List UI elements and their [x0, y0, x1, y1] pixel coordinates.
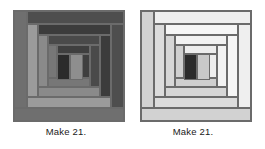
light-block-log-r2-right [217, 45, 227, 87]
dark-block-center-square [57, 54, 70, 80]
light-block-log-r3-left [154, 24, 165, 97]
dark-block-log-r3-right [100, 35, 111, 97]
dark-block-log-r2-bottom [38, 87, 100, 97]
dark-block-log-r2-right [90, 45, 100, 87]
dark-block-log-r1-top [57, 45, 90, 54]
dark-block-log-r3-left [27, 24, 38, 97]
dark-block-log-r3-top [38, 24, 111, 35]
quilt-block-dark [13, 10, 125, 122]
dark-block-log-r2-left [38, 35, 48, 87]
dark-block-center-partner-square [70, 54, 83, 80]
light-block-center-square [184, 54, 197, 80]
dark-block-log-r4-right [111, 24, 124, 108]
block-group-dark: Make 21. [0, 0, 132, 149]
quilt-block-light [140, 10, 252, 122]
light-block-log-r4-top [154, 11, 251, 24]
light-block-log-r2-top [175, 35, 227, 45]
light-block-log-r2-bottom [165, 87, 227, 97]
light-block-log-r3-top [165, 24, 238, 35]
light-block-center-partner-square [197, 54, 210, 80]
light-block-log-r4-bottom [141, 108, 251, 121]
dark-block-log-r4-top [27, 11, 124, 24]
light-block-log-r1-left [175, 45, 184, 78]
caption-light-block: Make 21. [127, 126, 259, 138]
diagram-page: Make 21. Make 21. [0, 0, 265, 149]
dark-block-log-r2-top [48, 35, 100, 45]
light-block-log-r3-right [227, 35, 238, 97]
dark-block-log-r4-left [14, 11, 27, 108]
dark-block-log-r3-bottom [27, 97, 111, 108]
dark-block-log-r1-left [48, 45, 57, 78]
light-block-log-r4-left [141, 11, 154, 108]
light-block-log-r2-left [165, 35, 175, 87]
dark-block-log-r4-bottom [14, 108, 124, 121]
caption-dark-block: Make 21. [0, 126, 132, 138]
light-block-log-r3-bottom [154, 97, 238, 108]
light-block-log-r4-right [238, 24, 251, 108]
block-group-light: Make 21. [127, 0, 259, 149]
light-block-log-r1-top [184, 45, 217, 54]
